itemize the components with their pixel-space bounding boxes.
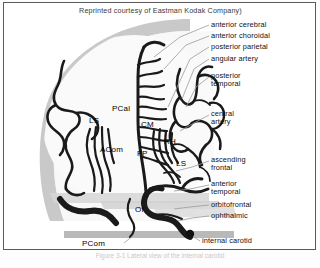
callout-posterior-parietal: posterior parietal bbox=[211, 43, 268, 51]
abbr-cm: CM bbox=[141, 120, 154, 129]
callout-central-artery: central artery bbox=[211, 110, 234, 127]
callout-angular-artery: angular artery bbox=[211, 55, 258, 63]
abbr-rh: RH bbox=[164, 137, 176, 146]
callout-internal-carotid: internal carotid bbox=[202, 237, 252, 245]
callout-posterior-temporal: posterior temporal bbox=[211, 72, 241, 89]
abbr-ls-left: LS bbox=[89, 116, 99, 125]
callout-anterior-temporal: anterior temporal bbox=[211, 180, 241, 197]
callout-ophthalmic: ophthalmic bbox=[211, 212, 248, 220]
callout-anterior-choroidal: anterior choroidal bbox=[211, 32, 270, 40]
figure-frame: Reprinted courtesy of Eastman Kodak Comp… bbox=[3, 2, 316, 250]
callout-anterior-cerebral: anterior cerebral bbox=[211, 21, 267, 29]
internal-carotid-marker bbox=[186, 230, 194, 238]
cerebral-angiogram-illustration bbox=[4, 3, 317, 251]
callout-ascending-frontal: ascending frontal bbox=[211, 156, 246, 173]
figure-page: Reprinted courtesy of Eastman Kodak Comp… bbox=[0, 0, 320, 268]
abbr-acom: ACom bbox=[100, 145, 123, 154]
abbr-pcom: PCom bbox=[82, 239, 105, 248]
figure-caption: Figure 3-1 Lateral view of the internal … bbox=[0, 252, 320, 266]
callout-orbitofrontal: orbitofrontal bbox=[211, 201, 251, 209]
abbr-of: Of bbox=[135, 205, 144, 214]
abbr-ls-right: LS bbox=[176, 159, 186, 168]
abbr-fp: FP bbox=[137, 149, 148, 158]
abbr-pcal: PCal bbox=[112, 104, 130, 113]
